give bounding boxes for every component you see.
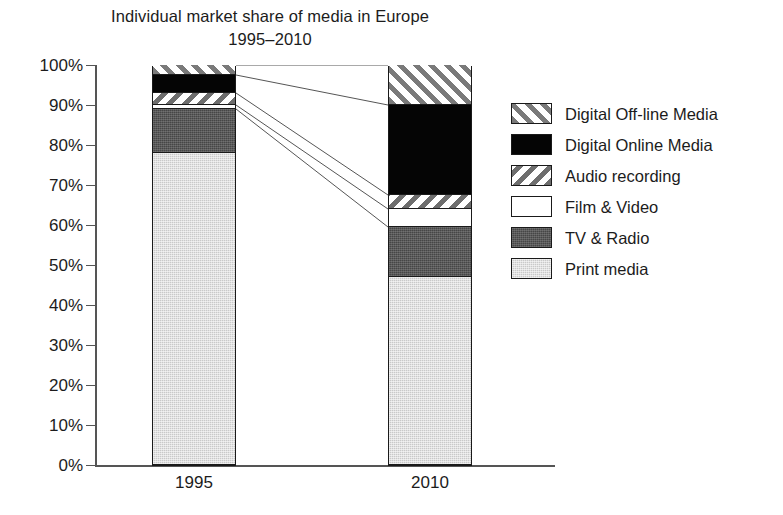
y-axis-line [95,65,97,466]
y-tick-100% [86,65,95,66]
bar-segment-2010-digital-online-media[interactable] [389,105,471,195]
y-tick-label-70%: 70% [49,177,83,194]
bar-segment-1995-audio-recording[interactable] [153,93,235,105]
bar-1995[interactable] [152,66,236,466]
bar-segment-2010-audio-recording[interactable] [389,195,471,209]
y-tick-50% [86,265,95,266]
bar-segment-2010-digital-off-line-media[interactable] [389,65,471,105]
legend-item-digital-off-line-media[interactable]: Digital Off-line Media [511,98,779,129]
y-tick-90% [86,105,95,106]
chart-title: Individual market share of media in Euro… [60,6,480,26]
connector-line-1 [236,109,388,227]
y-tick-30% [86,345,95,346]
y-tick-label-10%: 10% [49,417,83,434]
legend-item-film-video[interactable]: Film & Video [511,191,779,222]
connector-line-4 [236,75,388,105]
chart-subtitle: 1995–2010 [60,29,480,49]
legend-swatch-solid-black [511,134,552,155]
y-tick-label-80%: 80% [49,137,83,154]
y-tick-label-100%: 100% [40,57,83,74]
connector-line-2 [236,105,388,209]
y-tick-label-90%: 90% [49,97,83,114]
legend-label: TV & Radio [565,229,649,247]
chart-legend: Digital Off-line MediaDigital Online Med… [511,98,779,284]
y-tick-40% [86,305,95,306]
y-tick-80% [86,145,95,146]
bar-2010[interactable] [388,66,472,466]
bar-segment-2010-print-media[interactable] [389,277,471,465]
legend-label: Audio recording [565,167,681,185]
y-tick-label-50%: 50% [49,257,83,274]
y-tick-label-60%: 60% [49,217,83,234]
bar-segment-1995-tv-radio[interactable] [153,109,235,153]
chart-title-block: Individual market share of media in Euro… [60,6,480,49]
legend-swatch-solid-white [511,196,552,217]
legend-item-tv-radio[interactable]: TV & Radio [511,222,779,253]
y-tick-label-0%: 0% [58,457,83,474]
legend-swatch-hatch-backslash [511,165,552,186]
y-tick-label-20%: 20% [49,377,83,394]
legend-item-audio-recording[interactable]: Audio recording [511,160,779,191]
bar-segment-2010-tv-radio[interactable] [389,227,471,277]
legend-item-print-media[interactable]: Print media [511,253,779,284]
plot-area: 0%10%20%30%40%50%60%70%80%90%100% 1995 2… [95,65,555,466]
bar-segment-1995-film-video[interactable] [153,105,235,109]
y-tick-0% [86,465,95,466]
legend-swatch-solid-light-gray [511,258,552,279]
y-tick-label-40%: 40% [49,297,83,314]
legend-label: Film & Video [565,198,658,216]
bar-segment-1995-digital-off-line-media[interactable] [153,65,235,75]
legend-label: Digital Off-line Media [565,105,718,123]
bar-segment-1995-print-media[interactable] [153,153,235,465]
bar-segment-1995-digital-online-media[interactable] [153,75,235,93]
legend-label: Digital Online Media [565,136,713,154]
legend-item-digital-online-media[interactable]: Digital Online Media [511,129,779,160]
bar-segment-2010-film-video[interactable] [389,209,471,227]
y-tick-60% [86,225,95,226]
connector-line-3 [236,93,388,195]
x-axis-label-2010: 2010 [360,473,500,493]
legend-swatch-hatch-forwardslash [511,103,552,124]
legend-label: Print media [565,260,648,278]
y-tick-20% [86,385,95,386]
chart-root: Individual market share of media in Euro… [0,0,783,515]
y-tick-70% [86,185,95,186]
y-tick-10% [86,425,95,426]
y-tick-label-30%: 30% [49,337,83,354]
legend-swatch-solid-dark-gray [511,227,552,248]
x-axis-label-1995: 1995 [124,473,264,493]
